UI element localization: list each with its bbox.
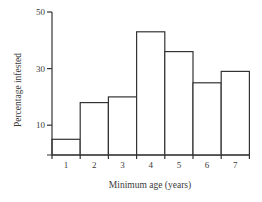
- x-tick-label: 2: [92, 160, 97, 170]
- bar-age-6: [193, 83, 221, 155]
- bar-age-7: [221, 71, 249, 155]
- y-tick-label: 10: [36, 120, 46, 130]
- bar-age-5: [165, 52, 193, 155]
- x-tick-label: 4: [148, 160, 153, 170]
- y-tick-label: 50: [36, 7, 46, 17]
- histogram-chart: 103050 1234567 Minimum age (years) Perce…: [0, 0, 262, 202]
- x-tick-label: 3: [120, 160, 125, 170]
- bar-age-2: [80, 103, 108, 155]
- bar-age-4: [137, 32, 165, 155]
- x-tick-label: 7: [233, 160, 238, 170]
- x-tick-label: 5: [177, 160, 182, 170]
- x-tick-label: 6: [205, 160, 210, 170]
- x-ticks: 1234567: [52, 155, 249, 170]
- bar-age-3: [108, 97, 136, 155]
- bar-age-1: [52, 139, 80, 155]
- y-axis-title: Percentage infested: [13, 53, 23, 127]
- y-ticks: 103050: [36, 7, 52, 130]
- bars-group: [52, 32, 249, 155]
- y-tick-label: 30: [36, 64, 46, 74]
- x-axis-title: Minimum age (years): [109, 180, 191, 191]
- x-tick-label: 1: [64, 160, 69, 170]
